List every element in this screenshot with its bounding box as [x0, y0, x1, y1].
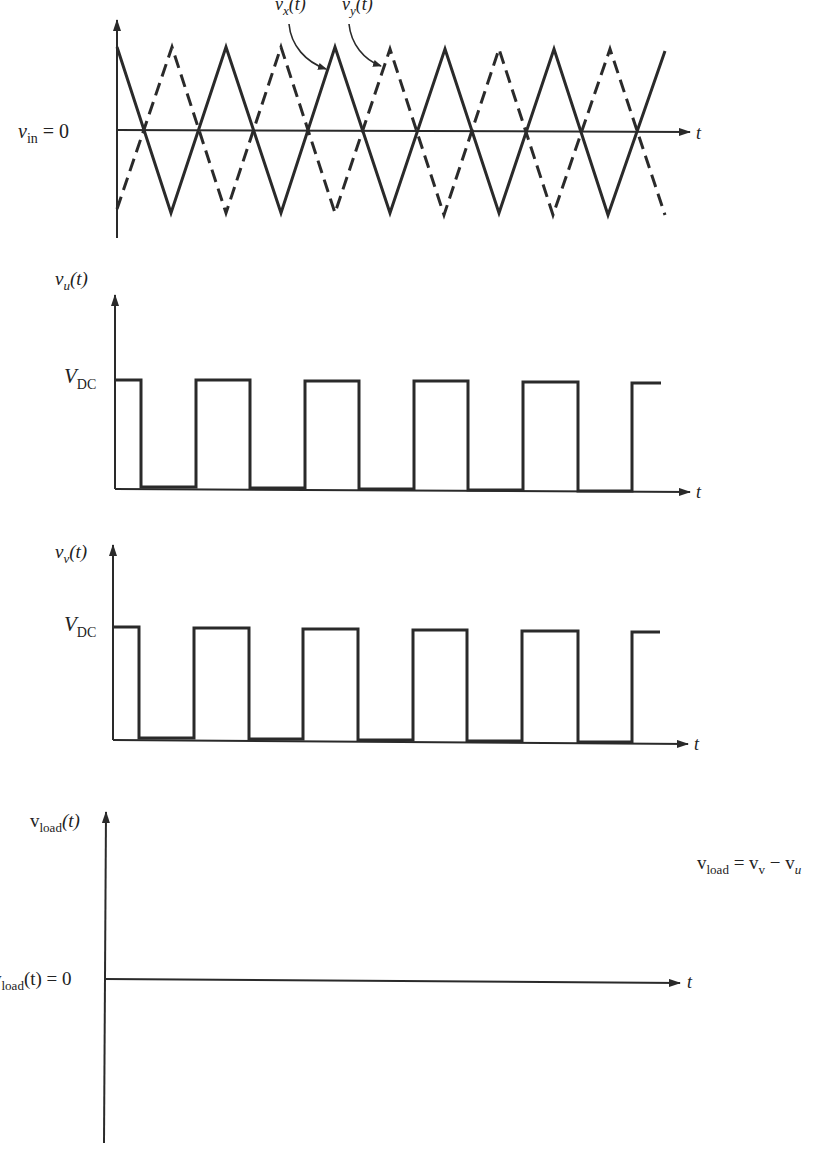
vv-y-label: vv(t) [55, 541, 87, 566]
vy-pointer-arrow [349, 24, 381, 66]
vv-plot: vv(t) VDC t [55, 541, 700, 754]
vload-zero-label: vload(t) = 0 [0, 968, 72, 993]
vload-x-axis [105, 979, 680, 983]
vu-square-wave [115, 380, 661, 491]
vload-plot: vload(t) vload(t) = 0 t vload = vv − vu [0, 810, 802, 1143]
vy-label: vy(t) [342, 0, 373, 18]
vv-vdc-label: VDC [64, 612, 96, 640]
vu-plot: vu(t) VDC t [55, 268, 702, 502]
vload-y-label: vload(t) [30, 810, 80, 835]
carrier-x-axis [117, 130, 690, 132]
vx-label: vx(t) [275, 0, 306, 18]
carrier-y-label: vin = 0 [18, 120, 69, 146]
vv-square-wave [113, 627, 660, 742]
vu-y-label: vu(t) [55, 268, 88, 293]
vv-x-label: t [694, 734, 700, 754]
carrier-plot: vin = 0 t vx(t) vy(t) [18, 0, 702, 238]
pwm-waveform-diagram: vin = 0 t vx(t) vy(t) vu(t) VDC t vv(t) [0, 0, 829, 1163]
vu-x-label: t [696, 482, 702, 502]
carrier-x-label: t [696, 123, 702, 143]
vload-y-axis [104, 812, 106, 1143]
vload-x-label: t [687, 972, 693, 992]
vu-vdc-label: VDC [64, 364, 96, 392]
vx-pointer-arrow [289, 24, 326, 69]
vload-equation: vload = vv − vu [697, 852, 802, 877]
